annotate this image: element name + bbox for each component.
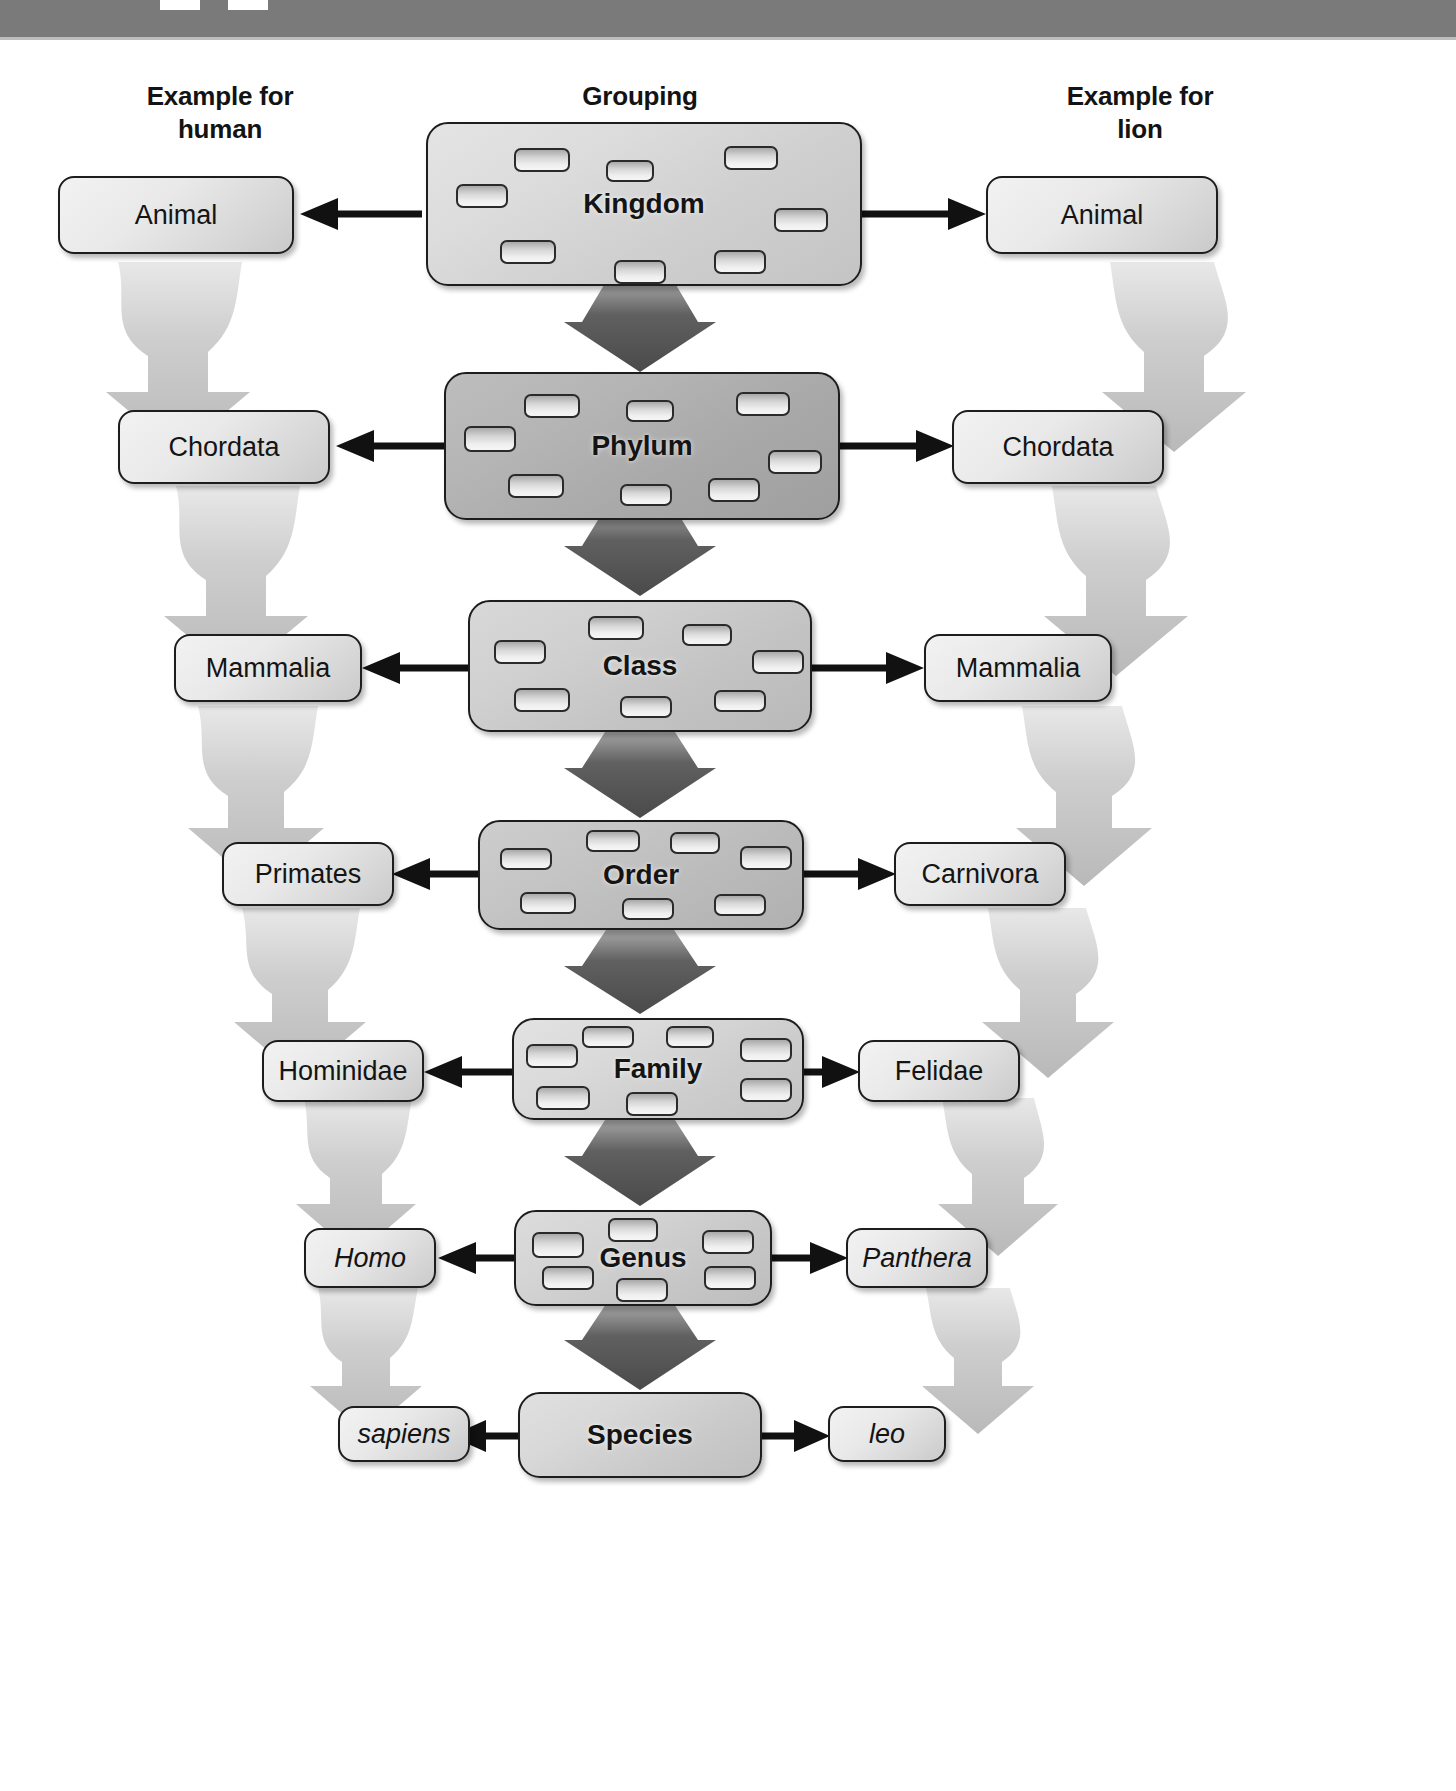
grouping-chip [682,624,732,646]
human-node-genus[interactable]: Homo [304,1228,436,1288]
human-node-order[interactable]: Primates [222,842,394,906]
human-node-label: Hominidae [278,1056,407,1087]
grouping-chip [616,1278,668,1302]
human-node-label: Animal [135,200,218,231]
grouping-chip [724,146,778,170]
human-node-family[interactable]: Hominidae [262,1040,424,1102]
lion-node-label: Chordata [1002,432,1113,463]
taxonomy-diagram: Example for human Grouping Example for l… [0,0,1456,1791]
grouping-chip [500,240,556,264]
human-node-label: sapiens [357,1419,450,1450]
left-arrow-icon-genus-human [438,1242,514,1274]
lion-node-species[interactable]: leo [828,1406,946,1462]
left-arrow-icon-class-human [362,652,470,684]
grouping-chip [740,846,792,870]
lion-node-label: Mammalia [956,653,1081,684]
human-node-label: Chordata [168,432,279,463]
grouping-chip [614,260,666,284]
grouping-chip [588,616,644,640]
grouping-chip [456,184,508,208]
human-node-species[interactable]: sapiens [338,1406,470,1462]
human-node-phylum[interactable]: Chordata [118,410,330,484]
grouping-node-label: Species [587,1419,693,1451]
grouping-chip [586,830,640,852]
grouping-chip [622,898,674,920]
grouping-node-phylum[interactable]: Phylum [444,372,840,520]
down-arrow-icon-order-family [564,918,716,1014]
lion-node-order[interactable]: Carnivora [894,842,1066,906]
left-arrow-icon-family-human [424,1056,512,1088]
grouping-chip [514,148,570,172]
grouping-chip [704,1266,756,1290]
grouping-chip [714,894,766,916]
lion-node-family[interactable]: Felidae [858,1040,1020,1102]
grouping-chip [536,1086,590,1110]
right-arrow-icon-class-lion [812,652,924,684]
grouping-chip [702,1230,754,1254]
grouping-chip [500,848,552,870]
grouping-chip [582,1026,634,1048]
lion-node-label: Animal [1061,200,1144,231]
down-arrow-icon-family-genus [564,1106,716,1206]
grouping-chip [708,478,760,502]
grouping-chip [626,1092,678,1116]
left-arrow-icon-order-human [392,858,478,890]
grouping-chip [714,690,766,712]
grouping-node-family[interactable]: Family [512,1018,804,1120]
grouping-chip [532,1232,584,1258]
lion-node-label: Felidae [895,1056,984,1087]
grouping-node-class[interactable]: Class [468,600,812,732]
grouping-node-label: Phylum [591,430,692,462]
grouping-chip [620,696,672,718]
grouping-chip [494,640,546,664]
grouping-chip [606,160,654,182]
lion-node-kingdom[interactable]: Animal [986,176,1218,254]
grouping-chip [774,208,828,232]
grouping-chip [520,892,576,914]
left-arrow-icon-phylum-human [336,430,446,462]
lion-node-phylum[interactable]: Chordata [952,410,1164,484]
grouping-chip [524,394,580,418]
grouping-node-label: Kingdom [583,188,704,220]
grouping-node-kingdom[interactable]: Kingdom [426,122,862,286]
grouping-node-label: Family [614,1053,703,1085]
right-arrow-icon-genus-lion [770,1242,848,1274]
grouping-chip [714,250,766,274]
grouping-chip [620,484,672,506]
grouping-node-label: Genus [599,1242,686,1274]
human-node-class[interactable]: Mammalia [174,634,362,702]
grouping-chip [608,1218,658,1242]
down-arrow-icon-genus-species [564,1292,716,1390]
grouping-chip [752,650,804,674]
lion-node-label: Carnivora [921,859,1038,890]
down-arrow-icon-class-order [564,718,716,818]
human-node-label: Mammalia [206,653,331,684]
lion-node-genus[interactable]: Panthera [846,1228,988,1288]
grouping-node-genus[interactable]: Genus [514,1210,772,1306]
right-arrow-icon-species-lion [762,1420,830,1452]
lion-node-class[interactable]: Mammalia [924,634,1112,702]
grouping-chip [666,1026,714,1048]
grouping-chip [740,1078,792,1102]
right-arrow-icon-phylum-lion [836,430,954,462]
human-node-label: Homo [334,1243,406,1274]
grouping-chip [526,1044,578,1068]
grouping-chip [670,832,720,854]
human-node-label: Primates [255,859,362,890]
grouping-chip [736,392,790,416]
grouping-node-label: Class [603,650,678,682]
lion-node-label: leo [869,1419,905,1450]
grouping-chip [626,400,674,422]
grouping-chip [508,474,564,498]
lion-node-label: Panthera [862,1243,972,1274]
grouping-chip [740,1038,792,1062]
grouping-chip [542,1266,594,1290]
grouping-node-species[interactable]: Species [518,1392,762,1478]
left-arrow-icon-kingdom-human [300,198,422,230]
grouping-chip [464,426,516,452]
grouping-node-label: Order [603,859,679,891]
human-node-kingdom[interactable]: Animal [58,176,294,254]
grouping-node-order[interactable]: Order [478,820,804,930]
right-arrow-icon-order-lion [804,858,896,890]
grouping-chip [768,450,822,474]
